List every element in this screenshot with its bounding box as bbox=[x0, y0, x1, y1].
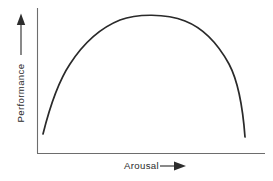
yerkes-dodson-figure: Performance Arousal bbox=[0, 0, 273, 181]
arrow-up-icon bbox=[17, 14, 25, 26]
arrow-right-icon bbox=[174, 161, 186, 170]
x-axis-label-text: Arousal bbox=[124, 160, 159, 171]
inverted-u-chart: Performance Arousal bbox=[0, 0, 273, 181]
y-axis-label-group: Performance bbox=[15, 14, 26, 123]
performance-curve bbox=[43, 15, 245, 137]
x-axis-label-group: Arousal bbox=[124, 160, 186, 171]
y-axis-label-text: Performance bbox=[15, 64, 26, 123]
